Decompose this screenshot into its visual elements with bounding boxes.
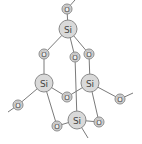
svg-text:Si: Si bbox=[73, 116, 81, 126]
oxygen-atom-top: O bbox=[62, 4, 72, 14]
silicon-atom-bottom: Si bbox=[68, 111, 86, 129]
svg-text:O: O bbox=[64, 94, 70, 102]
oxygen-atom-bottom-left: O bbox=[52, 121, 62, 131]
silicon-atoms: Si Si Si Si bbox=[35, 20, 99, 129]
oxygen-atom-bottom-right: O bbox=[94, 117, 104, 127]
oxygen-atom-upper-middle: O bbox=[70, 52, 80, 62]
silicon-atom-left: Si bbox=[35, 74, 53, 92]
silicon-atom-right: Si bbox=[81, 74, 99, 92]
oxygen-atom-far-left: O bbox=[13, 100, 23, 110]
svg-text:O: O bbox=[86, 51, 92, 59]
oxygen-atom-upper-right: O bbox=[84, 49, 94, 59]
svg-text:Si: Si bbox=[86, 79, 94, 89]
oxygen-atom-far-right: O bbox=[115, 94, 125, 104]
svg-text:O: O bbox=[15, 102, 21, 110]
svg-text:O: O bbox=[117, 96, 123, 104]
svg-text:O: O bbox=[54, 123, 60, 131]
svg-text:O: O bbox=[96, 119, 102, 127]
oxygen-atom-center: O bbox=[62, 92, 72, 102]
svg-text:O: O bbox=[41, 51, 47, 59]
silicon-atom-top: Si bbox=[59, 20, 77, 38]
oxygen-atom-upper-left: O bbox=[39, 49, 49, 59]
svg-text:O: O bbox=[72, 54, 78, 62]
svg-text:Si: Si bbox=[64, 25, 72, 35]
svg-text:O: O bbox=[64, 6, 70, 14]
svg-text:Si: Si bbox=[40, 79, 48, 89]
silicate-structure-diagram: O O O O O O O O bbox=[0, 0, 142, 144]
